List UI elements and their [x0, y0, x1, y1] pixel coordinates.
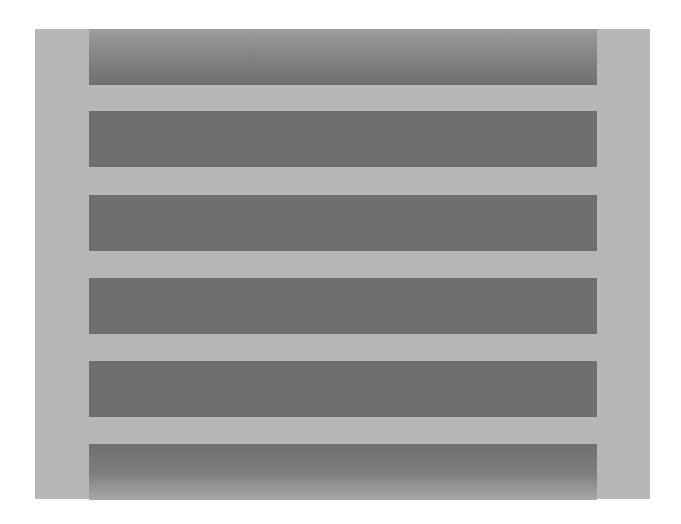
- stripe-bar-6: [89, 444, 597, 500]
- stripe-bar-5: [89, 361, 597, 417]
- stripe-bar-3: [89, 195, 597, 251]
- stripe-bar-4: [89, 278, 597, 334]
- stripe-bar-2: [89, 111, 597, 167]
- stripe-bar-1: [89, 29, 597, 85]
- grating-figure-panel: [35, 29, 650, 499]
- figure-caption-cut-off: [150, 512, 681, 524]
